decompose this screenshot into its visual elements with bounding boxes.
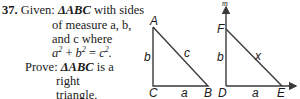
ray-m-label: m: [222, 0, 228, 8]
vertex-e-label: E: [277, 86, 286, 99]
side-c-label: c: [184, 46, 190, 60]
vertex-a-label: A: [149, 14, 158, 28]
triangle-abc-outline: [153, 27, 208, 86]
vertex-c-label: C: [149, 86, 158, 99]
figures: A C B b a c m F D E b a x: [0, 0, 300, 99]
triangle-abc: A C B b a c: [144, 14, 212, 99]
side-b-label: b: [144, 50, 151, 64]
side-a-label-def: a: [252, 86, 259, 99]
side-x-label: x: [254, 49, 262, 63]
triangle-def: m F D E b a x: [217, 0, 296, 99]
side-a-label: a: [181, 86, 188, 99]
vertex-f-label: F: [217, 22, 225, 36]
segment-fe: [226, 29, 282, 86]
side-b-label-def: b: [217, 50, 224, 64]
vertex-b-label: B: [204, 86, 212, 99]
vertex-d-label: D: [218, 86, 227, 99]
